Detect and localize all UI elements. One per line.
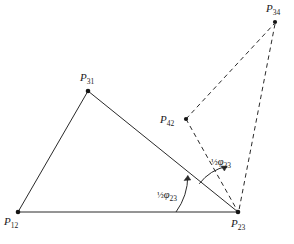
angle-arc-lower	[176, 176, 188, 212]
edge-p12-p31	[18, 91, 88, 212]
geometry-figure: P12 P31 P23 P42 P34 ½φ23 ½φ23	[0, 0, 294, 244]
angle-label-upper-symbol: φ	[218, 156, 224, 167]
point-label-p12: P12	[4, 216, 18, 227]
point-label-p23: P23	[231, 218, 245, 229]
point-label-p23-base: P	[231, 217, 238, 229]
angle-label-upper-fraction: ½	[211, 157, 218, 167]
point-label-p34: P34	[266, 3, 280, 14]
vertex-dot-p34	[273, 20, 277, 24]
edge-p42-p34	[186, 24, 274, 119]
vertex-dot-p42	[184, 117, 188, 121]
angle-label-upper: ½φ23	[211, 157, 231, 168]
point-label-p31: P31	[80, 72, 94, 83]
vertex-dot-p23	[236, 210, 241, 215]
point-label-p31-sub: 31	[87, 77, 95, 86]
solid-edge-group	[18, 91, 238, 212]
edge-p34-p23	[239, 24, 275, 210]
point-label-p12-sub: 12	[11, 221, 19, 230]
point-label-p31-base: P	[80, 71, 87, 83]
angle-label-upper-sub: 23	[224, 161, 232, 170]
point-label-p34-base: P	[266, 2, 273, 14]
angle-label-lower-symbol: φ	[164, 189, 170, 200]
vertex-marker-group	[16, 20, 277, 214]
angle-label-lower-sub: 23	[170, 194, 178, 203]
angle-arc-group	[176, 166, 227, 212]
figure-canvas	[0, 0, 294, 244]
vertex-dot-p31	[86, 89, 91, 94]
angle-label-lower-fraction: ½	[157, 190, 164, 200]
angle-arc-lower-arrowhead	[184, 176, 191, 181]
point-label-p42: P42	[160, 114, 174, 125]
point-label-p42-sub: 42	[167, 119, 175, 128]
point-label-p12-base: P	[4, 215, 11, 227]
dashed-edge-group	[186, 24, 275, 210]
vertex-dot-p12	[16, 210, 21, 215]
point-label-p42-base: P	[160, 113, 167, 125]
point-label-p23-sub: 23	[238, 223, 246, 232]
point-label-p34-sub: 34	[273, 8, 281, 17]
angle-label-lower: ½φ23	[157, 190, 177, 201]
